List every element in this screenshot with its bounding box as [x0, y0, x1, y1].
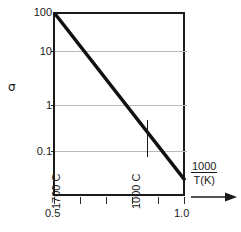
x-tick-mark-0.583	[80, 197, 81, 204]
x-tick-label-1.0: 1.0	[174, 207, 189, 219]
annotation-1700c: 1700 C	[50, 174, 62, 209]
x-tick-mark-1.0	[184, 197, 185, 204]
x-tick-mark-0.75	[132, 197, 133, 204]
plot-area: 1700 C 1000 C	[53, 12, 185, 196]
y-tick-label-100: 100	[34, 7, 52, 18]
x-axis-title-denominator: T(K)	[191, 173, 217, 186]
x-tick-label-0.5: 0.5	[45, 207, 60, 219]
x-tick-mark-0.667	[106, 197, 107, 204]
error-bar-1000c	[147, 120, 148, 157]
x-axis-title: 1000 T(K)	[191, 160, 217, 186]
x-axis-title-numerator: 1000	[191, 160, 217, 173]
x-tick-mark-0.5	[54, 197, 55, 204]
y-axis-label: σ	[8, 80, 16, 94]
x-tick-mark-0.833	[158, 197, 159, 204]
semilog-chart-figure: σ 100 10 1 0.1 1700 C 1000 C 0.5 1.0 100…	[0, 0, 241, 232]
y-tick-label-0.1: 0.1	[37, 146, 52, 157]
direction-arrow-icon	[191, 192, 237, 202]
data-line-conductivity	[55, 14, 187, 198]
